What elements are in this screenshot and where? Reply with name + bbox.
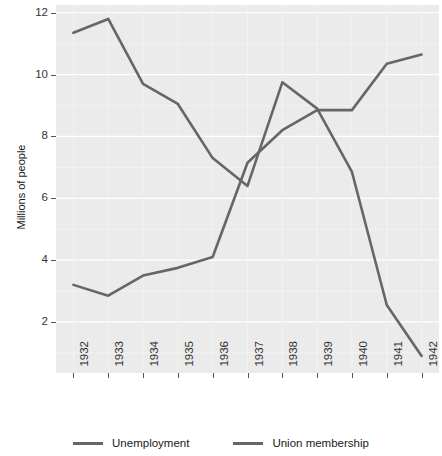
x-axis-tick-mark [143,373,144,378]
y-axis-tick-label: 2 [8,316,48,327]
x-axis-tick-mark [352,373,353,378]
x-axis-tick-mark [387,373,388,378]
legend-label: Union membership [272,437,369,449]
x-axis-tick-mark [248,373,249,378]
legend-label: Unemployment [112,437,189,449]
x-axis-tick-mark [317,373,318,378]
x-axis-tick-label: 1938 [287,341,299,381]
y-axis-tick-label: 4 [8,254,48,265]
x-axis-tick-mark [178,373,179,378]
y-axis-tick-label: 10 [8,69,48,80]
x-axis-tick-label: 1941 [392,341,404,381]
y-axis-tick-label: 12 [8,7,48,18]
x-axis-tick-label: 1932 [78,341,90,381]
x-axis-tick-label: 1939 [322,341,334,381]
y-axis-tick-label: 6 [8,192,48,203]
plot-area [56,5,439,373]
x-axis-tick-label: 1937 [253,341,265,381]
x-axis-tick-mark [108,373,109,378]
x-axis-tick-label: 1936 [218,341,230,381]
x-axis-tick-mark [213,373,214,378]
legend-item[interactable]: Union membership [233,437,369,449]
x-axis-tick-label: 1934 [148,341,160,381]
legend-line-icon [233,442,263,445]
legend-line-icon [73,442,103,445]
x-axis-tick-mark [422,373,423,378]
chart-legend: UnemploymentUnion membership [0,432,442,454]
x-axis-tick-mark [282,373,283,378]
x-axis-tick-label: 1942 [427,341,439,381]
line-chart: Millions of people 24681012 193219331934… [0,0,442,456]
y-axis-tick-label: 8 [8,130,48,141]
x-axis-tick-label: 1933 [113,341,125,381]
legend-item[interactable]: Unemployment [73,437,189,449]
x-axis-tick-label: 1940 [357,341,369,381]
x-axis-tick-label: 1935 [183,341,195,381]
plot-panel [56,5,439,373]
x-axis-tick-mark [73,373,74,378]
